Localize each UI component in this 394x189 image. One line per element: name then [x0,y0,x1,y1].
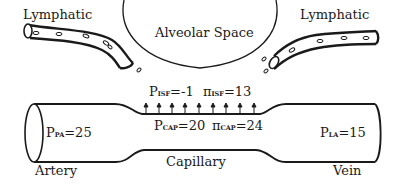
droplet-icon [261,36,369,73]
vein-label: Vein [332,163,362,178]
filtration-arrows [144,103,256,114]
lymphatic-left [24,24,142,73]
capillary-label: Capillary [166,154,226,169]
up-arrow-icon [144,103,256,114]
p-isf-label: PISF=-1 [149,84,194,99]
artery-label: Artery [34,163,78,178]
lymphatic-right [261,31,378,74]
p-la-label: PLA=15 [320,125,366,140]
lymphatic-right-label: Lymphatic [300,7,369,22]
p-cap-label: PCAP=20 [154,118,205,133]
pi-isf-label: πISF=13 [203,84,251,99]
alveolar-space-label: Alveolar Space [154,25,254,40]
pi-cap-label: πCAP=24 [212,118,263,133]
artery-opening [25,104,43,162]
lymphatic-left-label: Lymphatic [23,7,92,22]
isf-pressures: PISF=-1 πISF=13 [149,84,251,99]
lung-fluid-exchange-diagram: Alveolar Space Lymphatic Lymphat [0,0,394,189]
p-pa-label: PPA=25 [46,125,92,140]
